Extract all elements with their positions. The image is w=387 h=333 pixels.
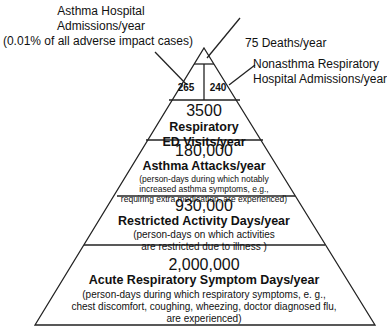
nonasthma-hosp-count: 240 bbox=[210, 83, 227, 93]
tier-label: Restricted Activity Days/year bbox=[118, 215, 290, 228]
callout-line: Admissions/year bbox=[6, 19, 196, 34]
callout-deaths: 75 Deaths/year bbox=[245, 36, 326, 51]
tier-desc: chest discomfort, coughing, wheezing, do… bbox=[71, 301, 336, 313]
tier-desc: (person-days during which notably bbox=[121, 174, 287, 184]
tier-value: 180,000 bbox=[121, 143, 287, 159]
tier-acute-symptoms: 2,000,000 Acute Respiratory Symptom Days… bbox=[71, 257, 336, 325]
tier-desc: increased asthma symptoms, e.g., bbox=[121, 184, 287, 194]
tier-value: 3500 bbox=[162, 103, 245, 119]
tier-label: Asthma Attacks/year bbox=[121, 160, 287, 173]
asthma-hosp-count: 265 bbox=[178, 83, 195, 93]
tier-desc: (person-days during which respiratory sy… bbox=[71, 289, 336, 301]
tier-desc: are experienced) bbox=[71, 313, 336, 325]
tier-label: Acute Respiratory Symptom Days/year bbox=[71, 274, 336, 287]
callout-line: Asthma Hospital bbox=[6, 4, 196, 19]
tier-label: Respiratory bbox=[162, 121, 245, 134]
callout-line: Hospital Admissions/year bbox=[253, 72, 387, 87]
tier-desc: are restricted due to illness ) bbox=[118, 241, 290, 253]
tier-asthma-attacks: 180,000 Asthma Attacks/year (person-days… bbox=[121, 143, 287, 204]
callout-line: Nonasthma Respiratory bbox=[253, 57, 387, 72]
callout-nonasthma: Nonasthma Respiratory Hospital Admission… bbox=[253, 57, 387, 87]
tier-value: 2,000,000 bbox=[71, 257, 336, 273]
callout-asthma-hospital: Asthma Hospital Admissions/year (0.01% o… bbox=[6, 4, 196, 49]
callout-line: (0.01% of all adverse impact cases) bbox=[0, 34, 196, 49]
tier-value: 930,000 bbox=[118, 198, 290, 214]
tier-desc: (person-days on which activities bbox=[118, 229, 290, 241]
tier-restricted-activity: 930,000 Restricted Activity Days/year (p… bbox=[118, 198, 290, 253]
